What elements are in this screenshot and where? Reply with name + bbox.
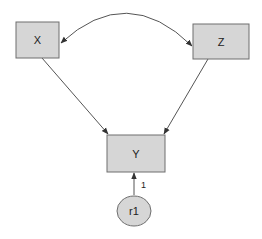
- edge-label-r1-y: 1: [141, 180, 146, 190]
- path-diagram: 1 X Z Y r1: [0, 0, 262, 239]
- node-r1[interactable]: r1: [117, 196, 151, 226]
- node-y[interactable]: Y: [107, 135, 165, 172]
- node-x[interactable]: X: [16, 22, 59, 58]
- covariance-arc-x-z[interactable]: [61, 13, 192, 46]
- node-r1-label: r1: [129, 205, 139, 217]
- path-x-to-y[interactable]: [42, 58, 108, 134]
- node-y-label: Y: [132, 148, 140, 160]
- path-z-to-y[interactable]: [164, 59, 208, 134]
- node-z-label: Z: [218, 36, 225, 48]
- node-z[interactable]: Z: [193, 24, 249, 59]
- node-x-label: X: [34, 34, 42, 46]
